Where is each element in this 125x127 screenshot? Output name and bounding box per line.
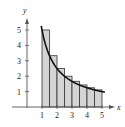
- y-tick-label: 2: [17, 72, 21, 81]
- x-tick-label: 2: [55, 111, 59, 120]
- y-tick-label: 4: [17, 41, 21, 50]
- x-tick-label: 3: [70, 111, 74, 120]
- x-axis-arrow-icon: [109, 105, 115, 109]
- x-tick-label: 5: [100, 111, 104, 120]
- y-tick-label: 1: [17, 88, 21, 97]
- riemann-rectangle: [42, 30, 50, 107]
- riemann-rectangle: [87, 88, 95, 107]
- riemann-sum-chart: y x 1234512345: [0, 0, 125, 127]
- y-tick-label: 5: [17, 26, 21, 35]
- riemann-rectangles: [42, 30, 102, 107]
- riemann-rectangle: [95, 90, 103, 107]
- x-tick-label: 4: [85, 111, 89, 120]
- y-axis-arrow-icon: [25, 18, 29, 24]
- riemann-rectangle: [80, 85, 88, 107]
- y-tick-label: 3: [17, 57, 21, 66]
- y-axis-label: y: [22, 6, 27, 15]
- x-axis-label: x: [116, 103, 121, 112]
- x-tick-label: 1: [40, 111, 44, 120]
